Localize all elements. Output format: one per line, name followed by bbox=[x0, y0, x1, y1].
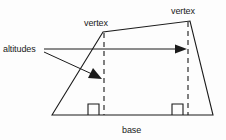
right-angle-marker-left bbox=[88, 104, 99, 115]
label-base: base bbox=[122, 125, 141, 135]
geometry-diagram: altitudes vertex vertex base bbox=[0, 0, 226, 140]
label-vertex-right: vertex bbox=[171, 6, 196, 16]
label-altitudes: altitudes bbox=[3, 44, 36, 54]
right-angle-marker-right bbox=[172, 104, 183, 115]
diagram-canvas: altitudes vertex vertex base bbox=[0, 0, 226, 140]
arrowhead-right bbox=[175, 45, 187, 54]
trapezoid-outline bbox=[52, 21, 213, 115]
leader-line-diagonal bbox=[44, 52, 92, 74]
label-vertex-left: vertex bbox=[84, 18, 109, 28]
